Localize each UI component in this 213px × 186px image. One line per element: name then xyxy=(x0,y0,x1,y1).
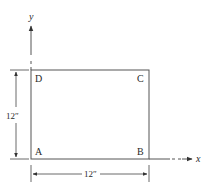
corner-label-a: A xyxy=(35,146,43,157)
square-plate-diagram: y x D C A B 12″ 12″ xyxy=(0,0,213,186)
corner-label-c: C xyxy=(137,73,144,84)
height-dimension-label: 12″ xyxy=(6,111,19,121)
square-plate xyxy=(31,70,149,159)
corner-label-d: D xyxy=(35,73,42,84)
x-axis-label: x xyxy=(195,153,201,164)
corner-label-b: B xyxy=(137,146,144,157)
y-axis-label: y xyxy=(28,11,34,22)
width-dimension-label: 12″ xyxy=(84,169,97,179)
